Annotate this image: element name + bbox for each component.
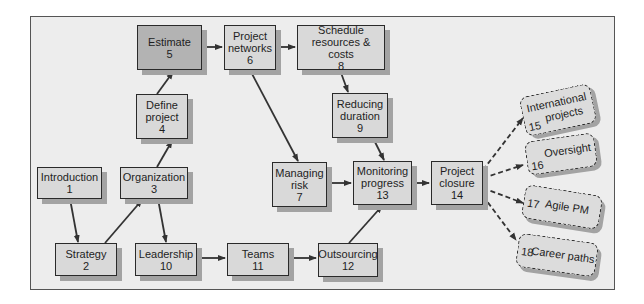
node-number: 3 [151, 183, 157, 195]
node-number: 7 [296, 191, 302, 203]
node-number: 2 [83, 260, 89, 272]
node-monitoring-progress: Monitoring progress 13 [353, 161, 412, 205]
node-number: 5 [166, 48, 172, 60]
node-label: Oversight [540, 140, 595, 159]
node-managing-risk: Managing risk 7 [272, 162, 327, 207]
node-number: 14 [451, 189, 463, 201]
node-label: Organization [123, 171, 185, 183]
node-label: Estimate [148, 36, 191, 48]
node-label: Managing [275, 167, 323, 179]
node-number: 8 [338, 60, 344, 72]
node-label: Agile PM [534, 196, 601, 218]
node-label: closure [439, 177, 474, 189]
node-number: 16 [531, 159, 545, 173]
node-label: risk [291, 179, 308, 191]
node-outsourcing: Outsourcing 12 [318, 243, 378, 277]
node-reducing-duration: Reducing duration 9 [332, 93, 388, 138]
node-label: duration [340, 110, 380, 122]
node-label: Teams [242, 248, 274, 260]
node-number: 15 [528, 119, 542, 133]
node-label: Strategy [66, 248, 107, 260]
node-schedule-resources: Schedule resources & costs 8 [297, 25, 385, 70]
node-label: Define [146, 99, 178, 111]
node-number: 18 [520, 245, 534, 259]
node-number: 12 [342, 260, 354, 272]
node-label: Project [440, 165, 474, 177]
node-introduction: Introduction 1 [37, 167, 102, 199]
node-teams: Teams 11 [227, 243, 289, 276]
node-number: 10 [160, 260, 172, 272]
node-define-project: Define project 4 [136, 94, 188, 139]
node-label: progress [361, 177, 404, 189]
node-number: 4 [159, 123, 165, 135]
node-label: networks [228, 42, 272, 54]
node-label: Schedule [318, 24, 364, 36]
node-label: Reducing [337, 98, 383, 110]
node-label: Monitoring [357, 165, 408, 177]
node-organization: Organization 3 [120, 167, 188, 199]
node-label: resources & costs [298, 36, 384, 60]
node-label: Introduction [41, 171, 98, 183]
node-leadership: Leadership 10 [135, 243, 197, 276]
node-number: 6 [247, 54, 253, 66]
node-number: 11 [252, 260, 263, 272]
node-number: 13 [376, 189, 388, 201]
node-number: 17 [526, 197, 540, 211]
node-number: 9 [357, 122, 363, 134]
node-label: Career paths [530, 244, 597, 265]
node-project-networks: Project networks 6 [224, 25, 276, 70]
node-estimate: Estimate 5 [137, 25, 202, 70]
node-label: Outsourcing [318, 248, 377, 260]
node-label: Project [233, 30, 267, 42]
node-number: 1 [66, 183, 72, 195]
node-strategy: Strategy 2 [55, 243, 117, 276]
node-label: Leadership [139, 248, 193, 260]
node-label: project [145, 111, 178, 123]
node-project-closure: Project closure 14 [431, 161, 483, 205]
